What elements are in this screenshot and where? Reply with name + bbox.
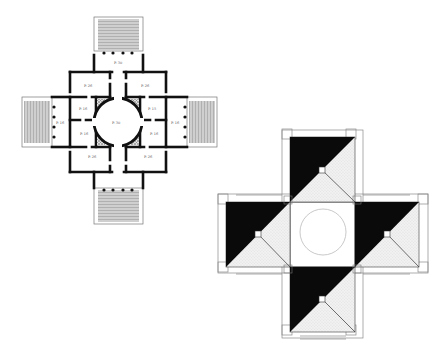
label-east-portico: P. 16 (171, 121, 179, 125)
geometric-roof-diagram (200, 120, 446, 361)
west-arm (226, 202, 290, 267)
label-nw-small: P. 16 (79, 107, 87, 111)
north-staircase (94, 17, 143, 51)
south-arm (290, 267, 355, 332)
label-ne-small: P. 15 (148, 107, 156, 111)
label-se-small: P. 16 (150, 132, 158, 136)
north-arm (290, 137, 355, 202)
south-staircase (94, 188, 143, 224)
roof-diagram-drawing (200, 120, 446, 361)
label-ne-room: P. 26 (141, 84, 149, 88)
label-north-portico: P. 30 (114, 61, 122, 65)
label-west-portico: P. 16 (56, 121, 64, 125)
west-staircase (22, 97, 52, 147)
label-nw-room: P. 26 (84, 84, 92, 88)
label-sw-room: P. 26 (88, 155, 96, 159)
label-sw-small: P. 16 (80, 132, 88, 136)
label-rotunda: P. 30 (112, 121, 120, 125)
east-arm (355, 202, 419, 267)
label-se-room: P. 26 (144, 155, 152, 159)
